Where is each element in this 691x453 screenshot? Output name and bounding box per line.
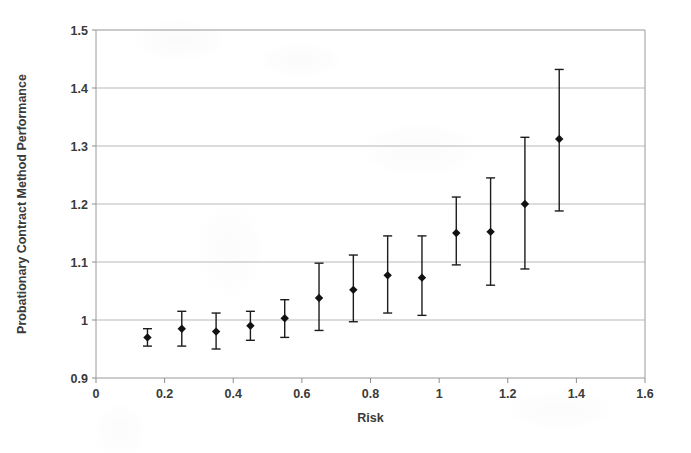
- data-marker-diamond: [521, 200, 529, 208]
- data-marker-diamond: [555, 135, 563, 143]
- data-marker-diamond: [452, 229, 460, 237]
- x-tick-label-0.6: 0.6: [293, 387, 310, 401]
- data-point-0.55: [280, 300, 289, 338]
- data-point-0.25: [177, 311, 186, 346]
- y-tick-label-1.2: 1.2: [71, 198, 88, 212]
- data-point-1.25: [520, 137, 529, 269]
- data-marker-diamond: [143, 333, 151, 341]
- data-marker-diamond: [315, 294, 323, 302]
- y-tick-label-1: 1: [81, 314, 88, 328]
- y-tick-label-1.3: 1.3: [71, 140, 88, 154]
- data-marker-diamond: [383, 271, 391, 279]
- x-tick-label-0: 0: [93, 387, 100, 401]
- data-series-group: [143, 69, 564, 349]
- data-point-1.05: [452, 197, 461, 265]
- y-tick-label-0.9: 0.9: [71, 372, 88, 386]
- error-bar-scatter-chart: 0.911.11.21.31.41.500.20.40.60.811.21.41…: [0, 0, 691, 453]
- y-tick-label-1.5: 1.5: [71, 24, 88, 38]
- data-marker-diamond: [281, 314, 289, 322]
- data-marker-diamond: [212, 327, 220, 335]
- data-marker-diamond: [418, 273, 426, 281]
- x-tick-label-0.4: 0.4: [225, 387, 242, 401]
- x-tick-label-1: 1: [436, 387, 443, 401]
- y-axis-title: Probationary Contract Method Performance: [15, 74, 29, 334]
- x-tick-label-0.8: 0.8: [362, 387, 379, 401]
- data-point-1.35: [555, 69, 564, 211]
- x-tick-label-1.2: 1.2: [499, 387, 516, 401]
- data-point-0.75: [349, 255, 358, 322]
- data-point-0.85: [383, 236, 392, 313]
- data-point-0.35: [212, 313, 221, 349]
- data-point-0.95: [417, 236, 426, 315]
- data-point-0.15: [143, 329, 152, 346]
- x-axis-title: Risk: [357, 411, 383, 425]
- data-point-0.45: [246, 311, 255, 340]
- x-tick-label-0.2: 0.2: [156, 387, 173, 401]
- data-marker-diamond: [178, 325, 186, 333]
- data-marker-diamond: [349, 286, 357, 294]
- x-tick-label-1.4: 1.4: [568, 387, 585, 401]
- y-tick-label-1.4: 1.4: [71, 82, 88, 96]
- x-tick-label-1.6: 1.6: [636, 387, 653, 401]
- chart-container: 0.911.11.21.31.41.500.20.40.60.811.21.41…: [0, 0, 691, 453]
- data-point-1.15: [486, 178, 495, 285]
- y-tick-label-1.1: 1.1: [71, 256, 88, 270]
- data-marker-diamond: [246, 322, 254, 330]
- data-marker-diamond: [486, 228, 494, 236]
